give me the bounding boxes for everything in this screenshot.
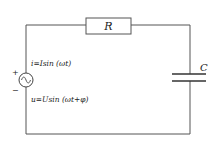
plus-sign: + (12, 68, 19, 77)
circuit-diagram: R C + − i=Isin (ωt) u=Usin (ωt+φ) (0, 0, 212, 147)
capacitor (172, 74, 206, 81)
voltage-equation: u=Usin (ωt+φ) (31, 95, 88, 104)
wires (26, 25, 190, 134)
current-equation: i=Isin (ωt) (31, 59, 71, 68)
capacitor-label: C (200, 62, 208, 73)
resistor-label: R (103, 20, 112, 33)
minus-sign: − (12, 86, 19, 95)
